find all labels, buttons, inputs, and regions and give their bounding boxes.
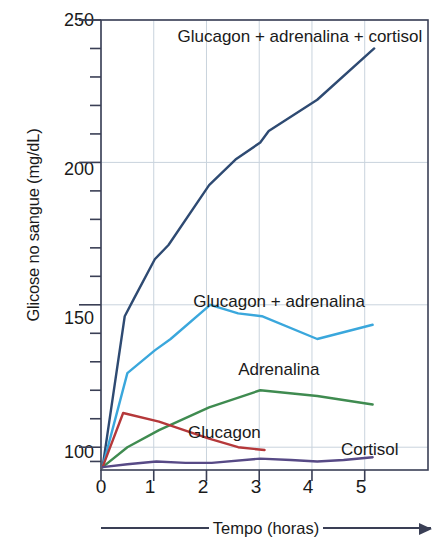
series-label-glucagon: Glucagon — [188, 424, 261, 441]
x-axis-title: Tempo (horas) — [209, 519, 323, 538]
series-label-glucagon-adrenalina: Glucagon + adrenalina — [193, 293, 365, 310]
plot-frame — [101, 20, 428, 470]
series-line-0 — [103, 48, 375, 467]
series-label-cortisol: Cortisol — [341, 441, 399, 458]
x-axis-right-arrow-icon — [323, 527, 431, 529]
series-line-1 — [103, 305, 373, 467]
x-axis-left-rule — [101, 527, 209, 529]
x-axis-title-group: Tempo (horas) — [101, 515, 431, 541]
plot-area — [0, 0, 441, 553]
glucose-line-chart: Glicose no sangue (mg/dL) 250 200 150 10… — [0, 0, 441, 553]
series-label-glucagon-adrenalina-cortisol: Glucagon + adrenalina + cortisol — [177, 28, 422, 45]
series-line-4 — [103, 457, 373, 467]
series-label-adrenalina: Adrenalina — [238, 361, 319, 378]
